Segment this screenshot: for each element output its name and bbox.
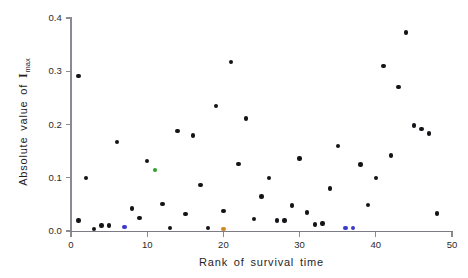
data-point <box>351 226 355 230</box>
data-point <box>76 218 80 222</box>
data-point <box>214 104 218 108</box>
data-point <box>259 194 263 198</box>
data-point <box>358 162 362 166</box>
y-tick-label-text: 0.3 <box>48 65 62 76</box>
y-tick-label: 0.0 <box>26 225 62 236</box>
data-point <box>282 218 286 222</box>
y-axis-title: Absolute value of Imax <box>16 22 32 222</box>
data-point <box>122 225 126 229</box>
x-tick-mark <box>375 232 376 237</box>
x-tick-label: 0 <box>56 239 86 250</box>
y-tick-mark <box>66 124 70 125</box>
data-point <box>297 156 301 160</box>
data-point <box>175 129 179 133</box>
y-tick-mark <box>66 177 70 178</box>
x-tick-label: 40 <box>361 239 391 250</box>
data-point <box>130 206 134 210</box>
data-point <box>374 176 378 180</box>
y-axis-title-symbol: I <box>16 73 30 78</box>
x-tick-label: 50 <box>437 239 467 250</box>
x-tick-label: 10 <box>132 239 162 250</box>
data-point <box>320 221 324 225</box>
scatter-plot-figure: 0.00.10.20.30.4 01020304050 Rank of surv… <box>0 0 468 278</box>
data-point <box>183 212 187 216</box>
data-point <box>427 131 431 135</box>
data-point <box>343 226 347 230</box>
data-point <box>305 210 309 214</box>
y-axis-title-subscript: max <box>23 58 32 72</box>
x-tick-mark <box>451 232 452 237</box>
data-point <box>221 209 225 213</box>
y-tick-label-text: 0.0 <box>48 225 62 236</box>
data-point <box>290 203 294 207</box>
x-tick-label: 30 <box>285 239 315 250</box>
y-tick-label-text: 0.2 <box>48 119 62 130</box>
data-point <box>419 127 423 131</box>
y-tick-label-text: 0.4 <box>48 12 62 23</box>
data-point <box>160 202 164 206</box>
y-axis-title-prefix: Absolute value of <box>17 78 29 186</box>
y-tick-mark <box>66 17 70 18</box>
x-tick-mark <box>70 232 71 237</box>
data-point <box>389 153 393 157</box>
data-point <box>191 133 195 137</box>
x-tick-mark <box>299 232 300 237</box>
data-point <box>153 168 157 172</box>
data-point <box>275 218 279 222</box>
data-point <box>221 227 225 231</box>
x-tick-mark <box>223 232 224 237</box>
plot-data-area <box>71 18 452 231</box>
data-point <box>99 223 103 227</box>
data-point <box>236 162 240 166</box>
data-point <box>412 123 416 127</box>
data-point <box>435 211 439 215</box>
data-point <box>313 222 317 226</box>
y-tick-mark <box>66 71 70 72</box>
y-tick-label-text: 0.1 <box>48 172 62 183</box>
data-point <box>92 227 96 231</box>
data-point <box>336 144 340 148</box>
data-point <box>381 64 385 68</box>
x-tick-label: 20 <box>208 239 238 250</box>
x-axis-title: Rank of survival time <box>71 256 452 268</box>
data-point <box>328 186 332 190</box>
data-point <box>76 74 80 78</box>
x-tick-mark <box>147 232 148 237</box>
